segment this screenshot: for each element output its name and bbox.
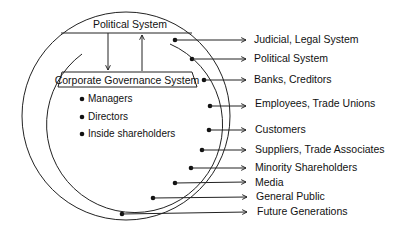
bullet-icon xyxy=(80,115,85,120)
stakeholder-minority: Minority Shareholders xyxy=(255,161,357,173)
member-directors: Directors xyxy=(88,111,128,122)
stakeholder-banks: Banks, Creditors xyxy=(254,73,332,85)
corporate-governance-label: Corporate Governance System xyxy=(55,74,200,86)
member-managers: Managers xyxy=(88,93,132,104)
stakeholder-suppliers: Suppliers, Trade Associates xyxy=(255,143,385,155)
stakeholder-judicial: Judicial, Legal System xyxy=(254,33,359,45)
member-inside-shareholders: Inside shareholders xyxy=(88,128,175,139)
diagram-canvas: Political System Corporate Governance Sy… xyxy=(0,0,393,233)
bullet-icon xyxy=(80,97,85,102)
arrow-icon xyxy=(175,182,246,183)
external-stakeholders: Judicial, Legal System Political System … xyxy=(120,33,385,217)
political-system-label: Political System xyxy=(93,18,167,30)
stakeholder-media: Media xyxy=(255,176,284,188)
bullet-icon xyxy=(80,132,85,137)
internal-members-list: Managers Directors Inside shareholders xyxy=(80,93,176,139)
stakeholder-general-public: General Public xyxy=(256,190,325,202)
stakeholder-future-generations: Future Generations xyxy=(257,205,347,217)
stakeholder-customers: Customers xyxy=(255,123,306,135)
arrow-icon xyxy=(153,197,247,198)
stakeholder-employees: Employees, Trade Unions xyxy=(255,97,375,109)
stakeholder-diagram: Political System Corporate Governance Sy… xyxy=(0,0,393,233)
stakeholder-political: Political System xyxy=(254,52,328,64)
